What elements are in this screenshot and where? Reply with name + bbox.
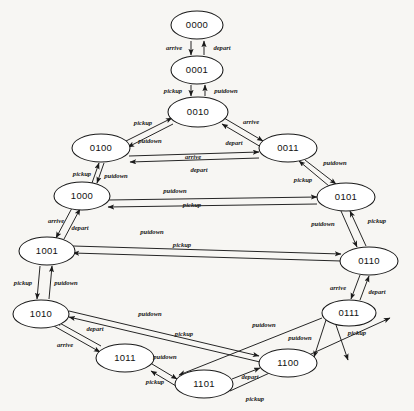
edge-label-0010-0100: putdown	[137, 137, 162, 144]
edge-label-1100-0111: pickup	[347, 329, 367, 336]
edge-0110-to-1001	[73, 253, 341, 261]
edge-1000-to-0101	[108, 197, 317, 200]
edge-1100-to-0111	[336, 325, 348, 360]
state-node-1000[interactable]: 1000	[54, 182, 110, 210]
state-node-0001[interactable]: 0001	[171, 56, 223, 84]
state-node-1100[interactable]: 1100	[259, 349, 317, 377]
state-label-0010: 0010	[187, 106, 209, 117]
edge-label-0010-0011: arrive	[243, 118, 259, 125]
state-node-1010[interactable]: 1010	[13, 300, 69, 328]
state-transition-graph: 0000000100100100001110000101100101101010…	[0, 0, 414, 411]
edge-label-1000-0101: putdown	[162, 187, 187, 194]
state-label-0111: 0111	[339, 307, 360, 318]
state-node-0010[interactable]: 0010	[168, 97, 228, 127]
edge-label-1101-1011: pickup	[145, 378, 165, 385]
edge-label-1010-1011: arrive	[57, 341, 73, 348]
edge-label-1011-1010: depart	[86, 325, 103, 332]
diagram-canvas: 0000000100100100001110000101100101101010…	[0, 0, 414, 411]
edge-label-0011-0100: depart	[190, 166, 207, 173]
state-node-0111[interactable]: 0111	[322, 300, 376, 326]
edge-label-0000-0001: arrive	[166, 44, 182, 51]
edge-label-0100-1000: putdown	[103, 172, 128, 179]
edge-label-1101-1100: depart	[241, 373, 258, 380]
state-label-1001: 1001	[36, 245, 58, 256]
edge-label-1010-1001: putdown	[53, 279, 78, 286]
edge-label-1001-1000: depart	[71, 224, 88, 231]
edge-label-1100-1010: pickup	[174, 330, 194, 337]
edge-1010-to-1001	[49, 266, 52, 299]
state-node-0100[interactable]: 0100	[72, 134, 130, 162]
state-label-0100: 0100	[90, 142, 112, 153]
edge-label-1101-0111: pickup	[245, 395, 265, 402]
state-label-1101: 1101	[193, 378, 215, 389]
state-node-0000[interactable]: 0000	[171, 11, 223, 39]
edge-label-0001-0000: depart	[213, 44, 230, 51]
state-label-1000: 1000	[71, 190, 93, 201]
edge-label-1011-1101: putdown	[152, 353, 177, 360]
edge-label-0101-1000: pickup	[182, 201, 202, 208]
edge-label-1001-0110: putdown	[139, 228, 164, 235]
edge-label-1010-1100: putdown	[137, 310, 162, 317]
state-label-0000: 0000	[186, 19, 208, 30]
edge-label-0011-0101: putdown	[322, 159, 347, 166]
edge-label-0110-0111: arrive	[330, 284, 346, 291]
edge-label-1001-1010: pickup	[13, 279, 33, 286]
edge-label-0110-1001: pickup	[172, 241, 192, 248]
state-node-1001[interactable]: 1001	[19, 237, 75, 265]
edge-label-0010-0001: putdown	[213, 87, 238, 94]
edge-label-0100-0011: arrive	[185, 153, 201, 160]
edge-label-0111-1100: putdown	[287, 334, 312, 341]
state-node-0110[interactable]: 0110	[340, 247, 398, 275]
edge-1010-to-1100	[69, 311, 259, 356]
state-label-0011: 0011	[277, 142, 299, 153]
state-label-1011: 1011	[114, 352, 136, 363]
edge-0101-to-1000	[108, 204, 317, 207]
state-node-1011[interactable]: 1011	[96, 344, 154, 372]
state-label-1010: 1010	[30, 308, 52, 319]
edge-1001-to-0110	[73, 246, 341, 254]
state-node-0101[interactable]: 0101	[317, 183, 375, 211]
edge-label-0111-1101: putdown	[251, 321, 276, 328]
edge-label-0011-0010: depart	[225, 139, 242, 146]
state-label-0101: 0101	[335, 191, 357, 202]
edge-0110-to-0111	[351, 275, 360, 299]
edge-label-0001-0010: pickup	[163, 87, 183, 94]
edge-label-0101-0011: pickup	[293, 176, 313, 183]
edge-0101-to-0110	[341, 211, 357, 247]
edge-label-0110-0101: pickup	[367, 217, 387, 224]
edge-0010-to-0100	[128, 124, 173, 147]
edge-label-0101-0110: putdown	[310, 220, 335, 227]
state-node-0011[interactable]: 0011	[259, 134, 317, 162]
edge-label-1000-0100: pickup	[72, 170, 92, 177]
edge-label-0100-0010: pickup	[133, 119, 153, 126]
edge-label-1000-1001: arrive	[48, 217, 64, 224]
state-label-0001: 0001	[186, 64, 208, 75]
state-node-1101[interactable]: 1101	[175, 370, 233, 398]
state-label-0110: 0110	[358, 255, 380, 266]
edge-1001-to-1010	[37, 266, 40, 299]
edge-0110-to-0101	[350, 211, 366, 246]
edge-label-0111-0110: depart	[368, 288, 385, 295]
state-label-1100: 1100	[277, 357, 299, 368]
